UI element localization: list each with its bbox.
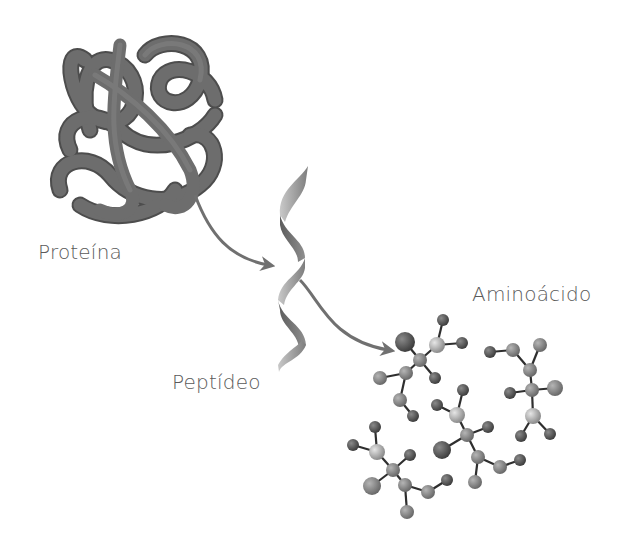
arrow-peptide-to-aminoacid bbox=[300, 280, 388, 350]
protein-illustration bbox=[58, 44, 215, 216]
peptide-illustration bbox=[278, 166, 308, 372]
peptide-label: Peptídeo bbox=[172, 370, 261, 394]
aminoacid-label: Aminoácido bbox=[472, 282, 591, 306]
arrow-protein-to-peptide bbox=[195, 195, 268, 265]
aminoacid-illustration bbox=[347, 314, 563, 519]
diagram-canvas bbox=[0, 0, 624, 550]
protein-label: Proteína bbox=[38, 240, 122, 264]
